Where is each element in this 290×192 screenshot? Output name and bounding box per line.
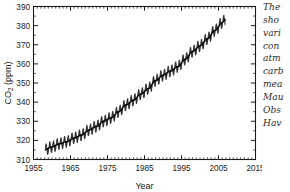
x-tick-label: 1975	[98, 164, 117, 173]
x-tick-label: 1955	[24, 164, 43, 173]
caption-line: atm	[263, 52, 290, 65]
co2-trend-line	[45, 20, 225, 150]
plot-frame	[34, 7, 256, 160]
caption-line: carb	[263, 65, 290, 78]
x-tick-label: 1965	[61, 164, 80, 173]
caption-line: vari	[263, 27, 290, 40]
x-tick-label: 1985	[135, 164, 154, 173]
y-tick-label: 350	[16, 79, 30, 88]
caption-line: sho	[263, 14, 290, 27]
y-tick-label: 360	[16, 60, 30, 69]
co2-keeling-curve-figure: 1955196519751985199520052015310320330340…	[0, 0, 290, 192]
y-tick-label: 380	[16, 22, 30, 31]
caption-line: mea	[263, 78, 290, 91]
y-tick-label: 320	[16, 136, 30, 145]
y-tick-label: 330	[16, 117, 30, 126]
y-tick-label: 310	[16, 156, 30, 165]
x-tick-label: 2005	[209, 164, 228, 173]
y-axis-label: CO2 (ppm)	[3, 61, 14, 104]
y-axis-label-text: CO2 (ppm)	[3, 61, 14, 104]
x-tick-label: 1995	[172, 164, 191, 173]
caption-line: Mau	[263, 91, 290, 104]
y-tick-label: 390	[16, 3, 30, 12]
caption-line: con	[263, 40, 290, 53]
caption-line: Obs	[263, 104, 290, 117]
y-tick-label: 340	[16, 98, 30, 107]
caption-line: The	[263, 1, 290, 14]
co2-chart-plot: 1955196519751985199520052015310320330340…	[0, 0, 262, 192]
y-tick-label: 370	[16, 41, 30, 50]
figure-caption: The sho vari con atm carb mea Mau Obs Ha…	[263, 1, 290, 129]
x-tick-label: 2015	[246, 164, 262, 173]
caption-line: Hav	[263, 117, 290, 130]
x-axis-label: Year	[135, 181, 153, 191]
